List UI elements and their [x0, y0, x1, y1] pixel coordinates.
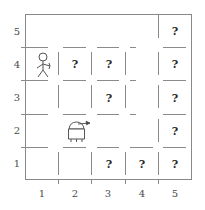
- wall-h-c3-y25: [97, 114, 119, 115]
- robot-icon: [65, 120, 95, 146]
- wall-h-c3b-y35: [130, 80, 136, 81]
- wall-v-r2-x45: [158, 119, 159, 142]
- tick-x-2: [91, 180, 92, 184]
- axis-x-label-1: 1: [32, 188, 52, 199]
- axis-x-label-4: 4: [132, 188, 152, 199]
- unknown-cell-3-3: ?: [103, 93, 115, 104]
- wall-h-c5-y15: [163, 147, 186, 148]
- stick-figure-icon: [33, 52, 59, 78]
- unknown-cell-5-2: ?: [169, 126, 181, 137]
- unknown-cell-5-4: ?: [169, 59, 181, 70]
- grid-border-left: [25, 14, 26, 180]
- wall-h-c1-y45: [26, 47, 48, 48]
- wall-h-c1-y35: [26, 80, 48, 81]
- wall-h-c3-y15: [97, 147, 119, 148]
- wall-h-c3-y45: [97, 47, 119, 48]
- axis-x-label-5: 5: [165, 188, 185, 199]
- grid-border-bottom: [25, 179, 192, 180]
- axis-x-label-2: 2: [65, 188, 85, 199]
- maze-diagram: 5 4 3 2 1 1 2 3 4 5: [0, 0, 205, 210]
- tick-x-4: [158, 180, 159, 184]
- unknown-cell-5-3: ?: [169, 93, 181, 104]
- wall-h-c2-y15: [63, 147, 86, 148]
- wall-h-c5-y35: [163, 80, 186, 81]
- tick-y-3: [21, 80, 25, 81]
- axis-x-label-3: 3: [98, 188, 118, 199]
- axis-y-label-3: 3: [6, 92, 20, 103]
- wall-v-r3-x15: [58, 85, 59, 108]
- wall-v-r1-x15: [58, 152, 59, 175]
- wall-h-c1-y15: [26, 147, 48, 148]
- wall-h-c2-y25: [63, 114, 86, 115]
- wall-h-c1-y25: [26, 114, 48, 115]
- wall-v-r5-x45: [158, 15, 159, 38]
- wall-v-r1-x35: [125, 152, 126, 175]
- wall-h-c3b-y45: [130, 47, 136, 48]
- wall-v-r3-x35: [125, 85, 126, 108]
- axis-y-label-1: 1: [6, 158, 20, 169]
- person-agent: [33, 52, 59, 78]
- wall-h-c3-y35: [97, 80, 119, 81]
- axis-y-label-5: 5: [6, 26, 20, 37]
- axis-y-label-4: 4: [6, 59, 20, 70]
- unknown-cell-5-1: ?: [169, 159, 181, 170]
- wall-h-c3b-y25: [130, 114, 136, 115]
- unknown-cell-3-1: ?: [103, 159, 115, 170]
- wall-v-r3-x45: [158, 85, 159, 108]
- wall-v-r1-x45: [158, 152, 159, 175]
- wall-v-r4-x45: [158, 52, 159, 75]
- wall-h-c2-y35: [63, 80, 86, 81]
- tick-y-1: [21, 147, 25, 148]
- tick-y-2: [21, 114, 25, 115]
- wall-v-r4-x35: [125, 52, 126, 75]
- tick-x-3: [125, 180, 126, 184]
- grid-border-top: [25, 14, 192, 15]
- grid-border-right: [191, 14, 192, 180]
- unknown-cell-2-4: ?: [69, 59, 81, 70]
- unknown-cell-4-1: ?: [136, 159, 148, 170]
- unknown-cell-3-4: ?: [103, 59, 115, 70]
- wall-h-c4-y15: [130, 147, 153, 148]
- wall-h-c5-y25: [163, 114, 186, 115]
- wall-h-c2-y45: [63, 47, 86, 48]
- wall-v-r4-x25: [91, 52, 92, 75]
- robot-agent: [65, 120, 95, 146]
- tick-y-4: [21, 47, 25, 48]
- maze-grid: ? ? ? ? ? ? ? ? ? ?: [25, 14, 192, 180]
- wall-h-c5-y45: [163, 47, 186, 48]
- axis-y-label-2: 2: [6, 125, 20, 136]
- tick-x-1: [58, 180, 59, 184]
- wall-v-r3-x25: [91, 85, 92, 108]
- unknown-cell-5-5: ?: [169, 26, 181, 37]
- wall-v-r1-x25: [91, 152, 92, 175]
